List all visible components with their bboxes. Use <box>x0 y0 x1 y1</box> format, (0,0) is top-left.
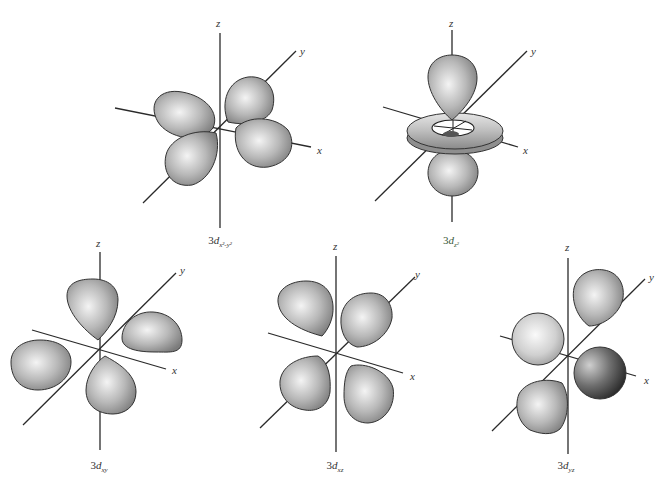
y-axis-label: y <box>530 45 536 57</box>
lobe-left-light <box>512 313 564 365</box>
z-axis-label: z <box>215 17 221 29</box>
orbital-diagram: z y x z y x z y x <box>0 0 667 489</box>
y-axis-label: y <box>179 264 185 276</box>
lobe-right-dark <box>574 347 626 399</box>
lobe-back-right <box>225 77 274 124</box>
lobe-bottom-right <box>344 365 393 423</box>
orbital-panel-dyz: z y x <box>492 241 654 454</box>
lobe-top <box>428 55 477 120</box>
x-axis-label: x <box>316 144 322 156</box>
torus-hole-shadow <box>443 131 459 137</box>
lobe-bottom-front <box>517 380 568 433</box>
x-axis-label: x <box>409 370 415 382</box>
lobe-left <box>11 340 71 390</box>
lobe-front-left <box>165 132 217 186</box>
lobe-bottom <box>428 150 478 196</box>
x-axis-label: x <box>171 364 177 376</box>
z-axis-label: z <box>564 241 570 253</box>
orbital-label-dxy: 3dxy <box>90 459 107 474</box>
lobe-top <box>67 279 118 340</box>
lobe-top-left <box>278 281 333 336</box>
orbital-panel-dx2-y2: z y x <box>115 17 322 228</box>
lobe-bottom <box>86 356 136 414</box>
lobe-back-left <box>154 91 215 137</box>
orbital-label-dyz: 3dyz <box>558 459 575 474</box>
y-axis-label: y <box>414 268 420 280</box>
x-axis-label: x <box>643 374 649 386</box>
y-axis-label: y <box>648 271 654 283</box>
orbital-panel-dxy: z y x <box>11 237 185 450</box>
z-axis-label: z <box>95 237 101 249</box>
orbital-label-dz2: 3dz² <box>443 234 459 249</box>
orbital-label-dxz: 3dxz <box>327 459 344 474</box>
lobe-bottom-left <box>280 356 330 410</box>
z-axis-label: z <box>332 240 338 252</box>
orbital-panel-dz2: z y x <box>375 17 536 222</box>
z-axis-label: z <box>448 17 454 29</box>
x-axis-label: x <box>522 144 528 156</box>
lobe-front-right <box>235 119 292 167</box>
orbital-label-dx2-y2: 3dx²-y² <box>208 234 232 249</box>
lobe-top-back <box>573 270 623 326</box>
orbital-panel-dxz: z y x <box>260 240 420 452</box>
lobe-top-right <box>341 293 392 347</box>
y-axis-label: y <box>299 45 305 57</box>
